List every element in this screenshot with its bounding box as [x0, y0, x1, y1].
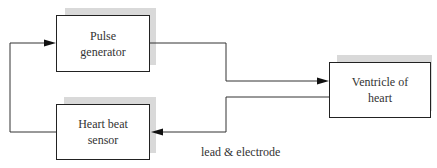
arrow-into-ventricle-icon: [317, 78, 329, 85]
lead-electrode-label: lead & electrode: [201, 145, 280, 160]
connectors: [0, 0, 437, 168]
ventricle-to-sensor-line: [160, 97, 329, 132]
arrow-into-sensor-icon: [151, 129, 163, 136]
arrow-into-pulse-icon: [44, 40, 56, 47]
pulse-to-ventricle-line: [150, 43, 320, 81]
sensor-to-pulse-line: [10, 43, 56, 132]
